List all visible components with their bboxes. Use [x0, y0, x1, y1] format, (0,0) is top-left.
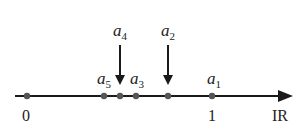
label-a3: a3 [130, 69, 145, 90]
tick-label-zero: 0 [22, 107, 30, 124]
label-a4: a4 [113, 21, 128, 42]
arrow-down-icon [163, 75, 173, 85]
label-a2: a2 [161, 21, 175, 42]
point-a1 [209, 93, 215, 99]
number-line-diagram: a4 a2 a5 a3 a1 0 1 IR [0, 0, 308, 134]
point-zero [24, 93, 30, 99]
label-a5: a5 [97, 69, 112, 90]
point-a2 [165, 93, 171, 99]
point-a3 [133, 93, 139, 99]
arrow-down-icon [115, 75, 125, 85]
label-a1: a1 [207, 69, 221, 90]
axis-label-reals: IR [272, 107, 288, 124]
axis-arrow-icon [278, 90, 293, 102]
tick-label-one: 1 [208, 107, 216, 124]
point-a5 [101, 93, 107, 99]
point-a4 [117, 93, 123, 99]
